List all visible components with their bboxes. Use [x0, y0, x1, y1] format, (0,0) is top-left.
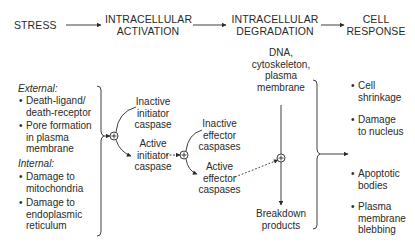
stage-intracellular-activation: INTRACELLULAR ACTIVATION — [105, 13, 191, 37]
internal-stress-heading: Internal: — [18, 158, 54, 170]
stage-stress: STRESS — [14, 19, 57, 31]
response-apoptotic-bodies: • Apoptotic bodies — [358, 168, 400, 191]
brace-stress — [97, 86, 104, 236]
inactive-initiator-caspase: Inactive initiator caspase — [128, 96, 178, 131]
response-cell-shrinkage: • Cell shrinkage — [358, 80, 401, 103]
stress-item-endoplasmic-reticulum: • Damage to endoplasmic reticulum — [26, 197, 82, 232]
stress-item-mitochondria: • Damage to mitochondria — [26, 171, 83, 194]
stress-item-death-ligand: • Death-ligand/ death-receptor — [26, 95, 91, 118]
breakdown-products: Breakdown products — [246, 208, 316, 231]
response-plasma-membrane-blebbing: • Plasma membrane blebbing — [358, 201, 406, 236]
degradation-targets: DNA, cytoskeleton, plasma membrane — [246, 47, 316, 93]
inactive-effector-caspases: Inactive effector caspases — [192, 118, 247, 153]
external-stress-heading: External: — [18, 83, 57, 95]
stage-intracellular-degradation: INTRACELLULAR DEGRADATION — [230, 13, 320, 37]
active-initiator-caspase: Active initiator caspase — [128, 138, 178, 173]
stress-item-pore-formation: • Pore formation in plasma membrane — [26, 120, 92, 155]
brace-degradation — [313, 80, 320, 229]
active-effector-caspases: Active effector caspases — [192, 161, 247, 196]
stage-cell-response: CELL RESPONSE — [345, 13, 407, 37]
response-damage-to-nucleus: • Damage to nucleus — [358, 114, 404, 137]
